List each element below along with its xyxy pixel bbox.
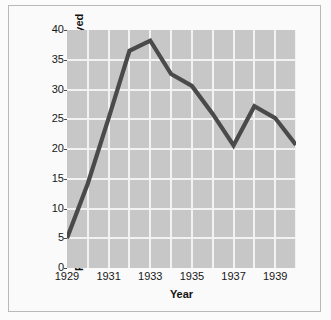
unemployment-line-series xyxy=(67,30,296,268)
x-tick-label: 1939 xyxy=(255,270,295,282)
y-tick-label: 10 xyxy=(24,203,64,214)
y-tick-label: 40 xyxy=(24,24,64,35)
y-tick-label: 30 xyxy=(24,84,64,95)
x-axis-ticks: 192919311933193519371939 xyxy=(67,270,296,288)
x-tick-label: 1929 xyxy=(47,270,87,282)
y-tick-mark xyxy=(64,268,67,269)
y-tick-label: 25 xyxy=(24,113,64,124)
chart-figure: Percent of non-agricultutral workers une… xyxy=(0,0,331,320)
y-tick-label: 20 xyxy=(24,143,64,154)
x-tick-label: 1933 xyxy=(130,270,170,282)
x-tick-label: 1935 xyxy=(172,270,212,282)
y-tick-label: 15 xyxy=(24,173,64,184)
y-axis-ticks: 0510152025303540 xyxy=(20,30,64,268)
data-polyline xyxy=(67,41,296,239)
x-tick-label: 1937 xyxy=(214,270,254,282)
y-tick-label: 5 xyxy=(24,232,64,243)
x-tick-label: 1931 xyxy=(89,270,129,282)
x-axis-title: Year xyxy=(67,288,296,300)
y-tick-label: 35 xyxy=(24,54,64,65)
plot-area xyxy=(67,30,296,268)
